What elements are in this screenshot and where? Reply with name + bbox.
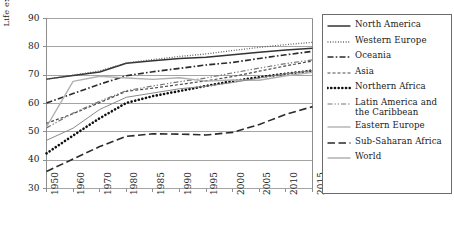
legend-line-sample-icon [327, 51, 351, 63]
chart-legend: North AmericaWestern EuropeOceaniaAsiaNo… [322, 14, 452, 194]
series-line-3 [47, 61, 313, 123]
y-axis-tick-label: 90 [18, 14, 40, 23]
legend-item-label: World [355, 151, 381, 162]
y-axis-tick-label: 30 [18, 184, 40, 193]
x-axis-tick-label: 1995 [210, 172, 219, 195]
legend-item-label: North America [355, 19, 421, 30]
x-axis-tick-label: 1980 [130, 172, 139, 195]
legend-item-label: Oceania [355, 50, 391, 61]
legend-item-label: Sub-Saharan Africa [355, 136, 442, 147]
x-axis-tick-label: 2000 [237, 172, 246, 195]
y-axis-tick-label: 50 [18, 127, 40, 136]
legend-line-sample-icon [327, 20, 351, 32]
y-axis-tick-label: 70 [18, 70, 40, 79]
legend-item-label: Asia [355, 66, 374, 77]
legend-item[interactable]: Northern Africa [327, 81, 448, 94]
series-line-5 [47, 60, 313, 128]
x-axis-tick-label: 1990 [184, 172, 193, 195]
legend-line-sample-icon [327, 121, 351, 133]
legend-item-label: Latin America and the Caribbean [355, 97, 437, 118]
legend-item[interactable]: Western Europe [327, 35, 448, 48]
y-axis-tick-label: 60 [18, 99, 40, 108]
legend-line-sample-icon [327, 82, 351, 94]
x-axis-tick-label: 1970 [104, 172, 113, 195]
legend-item[interactable]: Sub-Saharan Africa [327, 136, 448, 149]
x-axis-tick-label: 2010 [290, 172, 299, 195]
legend-item[interactable]: Latin America and the Caribbean [327, 97, 448, 118]
y-axis-title-text: Life expectancy at birth (years) [1, 0, 11, 26]
y-axis-title: Life expectancy at birth (years) [0, 0, 14, 46]
x-axis-tick-label: 1985 [157, 172, 166, 195]
legend-item[interactable]: North America [327, 19, 448, 32]
legend-item[interactable]: Asia [327, 66, 448, 79]
y-axis-tick-label: 80 [18, 42, 40, 51]
line-chart-figure: Life expectancy at birth (years) 9080706… [0, 0, 454, 239]
legend-line-sample-icon [327, 98, 351, 110]
x-axis-tick-label: 1960 [77, 172, 86, 195]
legend-item[interactable]: Eastern Europe [327, 120, 448, 133]
series-line-4 [47, 71, 313, 154]
legend-line-sample-icon [327, 36, 351, 48]
y-axis-tick-label: 40 [18, 155, 40, 164]
legend-item-label: Western Europe [355, 35, 427, 46]
legend-item[interactable]: World [327, 151, 448, 164]
legend-item-label: Northern Africa [355, 81, 426, 92]
series-line-7 [47, 107, 313, 172]
series-line-8 [47, 71, 313, 141]
legend-line-sample-icon [327, 137, 351, 149]
legend-item[interactable]: Oceania [327, 50, 448, 63]
x-axis-tick-label: 2005 [263, 172, 272, 195]
legend-line-sample-icon [327, 152, 351, 164]
legend-item-label: Eastern Europe [355, 120, 425, 131]
x-axis-tick-label: 1950 [51, 172, 60, 195]
legend-line-sample-icon [327, 67, 351, 79]
